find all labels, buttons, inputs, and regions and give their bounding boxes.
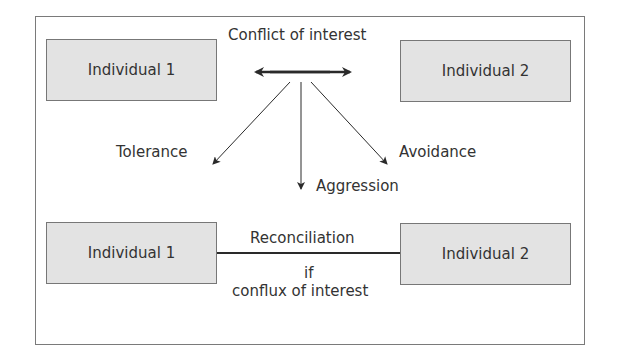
avoidance-arrow — [311, 82, 387, 164]
diagram-connectors — [0, 0, 618, 360]
tolerance-arrow — [213, 82, 290, 164]
